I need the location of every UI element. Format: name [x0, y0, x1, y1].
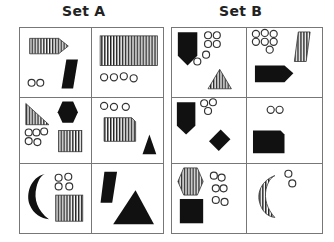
circle-icon [100, 74, 107, 81]
circle-icon [203, 51, 210, 58]
set-a-grid [19, 27, 164, 234]
circle-icon [33, 129, 40, 136]
circle-icon [270, 38, 277, 45]
set-a-cell-2 [92, 28, 164, 98]
circle-icon [201, 100, 208, 107]
circle-icon [213, 32, 220, 39]
set-a-cell-3 [20, 98, 92, 164]
circle-icon [276, 106, 283, 113]
set-b-cell-2 [247, 28, 322, 98]
striped-triangle-icon [208, 69, 231, 88]
circle-icon [205, 32, 212, 39]
striped-hexagon-icon [178, 168, 203, 195]
circle-icon [212, 196, 219, 203]
circle-icon [110, 74, 117, 81]
circle-icon [220, 185, 227, 192]
circle-icon [110, 103, 117, 110]
black-triangle-icon [142, 134, 156, 154]
set-b-cell-6 [247, 164, 322, 233]
black-pentagon-shield-icon [177, 102, 196, 134]
striped-square-icon [59, 131, 82, 152]
set-a-cell-1 [20, 28, 92, 98]
set-a-title: Set A [62, 3, 105, 19]
striped-right-triangle-icon [26, 103, 49, 124]
striped-crescent-icon [259, 176, 275, 218]
circle-icon [100, 102, 107, 109]
circle-icon [34, 139, 41, 146]
circle-icon [252, 38, 259, 45]
set-b-cell-5 [172, 164, 247, 233]
striped-pentagon-arrow-icon [30, 38, 69, 53]
set-b-cell-4 [247, 98, 322, 164]
circle-icon [289, 180, 296, 187]
black-cut-rectangle-icon [253, 131, 285, 154]
circle-icon [120, 73, 127, 80]
circle-icon [122, 103, 129, 110]
circle-icon [266, 46, 273, 53]
black-diamond-icon [209, 130, 230, 151]
circle-icon [55, 183, 62, 190]
circle-icon [37, 79, 44, 86]
circle-icon [25, 138, 32, 145]
black-hexagon-icon [58, 102, 78, 123]
black-parallelogram-icon [62, 60, 78, 89]
circle-icon [218, 174, 225, 181]
circle-icon [270, 30, 277, 37]
striped-cut-rectangle-icon [104, 118, 136, 142]
circle-icon [205, 40, 212, 47]
circle-icon [221, 198, 228, 205]
large-black-triangle-icon [113, 190, 154, 224]
circle-icon [55, 174, 62, 181]
circle-icon [212, 185, 219, 192]
circle-icon [252, 30, 259, 37]
circle-icon [210, 172, 217, 179]
circle-icon [41, 128, 48, 135]
circle-icon [267, 106, 274, 113]
circle-icon [285, 170, 292, 177]
circle-icon [209, 99, 216, 106]
set-b-cell-3 [172, 98, 247, 164]
black-pentagon-arrow-icon [255, 65, 293, 82]
black-parallelogram-icon [100, 172, 117, 203]
circle-icon [261, 38, 268, 45]
striped-square-icon [56, 195, 83, 221]
circle-icon [261, 29, 268, 36]
set-b-cell-1 [172, 28, 247, 98]
set-b-grid [171, 27, 323, 234]
circle-icon [213, 40, 220, 47]
striped-rectangle-icon [100, 36, 157, 66]
set-a-cell-5 [20, 164, 92, 233]
black-square-icon [180, 199, 203, 223]
set-a-cell-6 [92, 164, 164, 233]
set-b-title: Set B [219, 3, 262, 19]
circle-icon [194, 58, 201, 65]
circle-icon [28, 79, 35, 86]
circle-icon [205, 108, 212, 115]
circle-icon [65, 173, 72, 180]
circle-icon [25, 129, 32, 136]
black-crescent-icon [28, 174, 49, 219]
circle-icon [66, 183, 73, 190]
striped-parallelogram-icon [294, 32, 310, 62]
circle-icon [130, 75, 137, 82]
set-a-cell-4 [92, 98, 164, 164]
